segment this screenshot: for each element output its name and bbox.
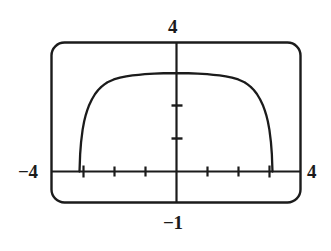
ymax-label: 4 [168,17,177,36]
xmax-label: 4 [307,162,316,181]
xmin-label: −4 [18,162,38,181]
graph-figure: 4 −4 4 −1 [0,0,331,251]
ymin-label: −1 [163,213,183,232]
